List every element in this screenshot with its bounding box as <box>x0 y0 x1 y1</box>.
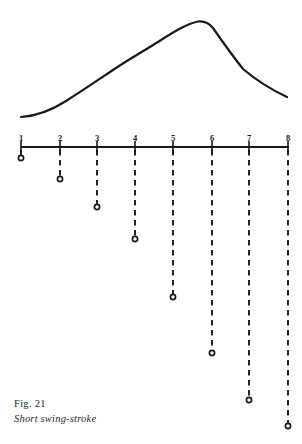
figure-title-label: Short swing-stroke <box>14 411 214 427</box>
tick-label-3: 3 <box>95 133 99 143</box>
tick-label-4: 4 <box>133 133 138 143</box>
stem-endpoint-6 <box>209 350 214 355</box>
tick-labels-group: 1 2 3 4 5 6 7 8 <box>19 133 290 143</box>
curve-group <box>21 21 287 117</box>
tick-label-5: 5 <box>171 133 175 143</box>
tick-label-8: 8 <box>286 133 290 143</box>
stem-endpoint-1 <box>18 155 23 160</box>
tick-label-2: 2 <box>58 133 62 143</box>
tick-label-6: 6 <box>210 133 214 143</box>
stem-endpoint-8 <box>285 423 290 428</box>
stem-endpoint-5 <box>170 294 175 299</box>
stem-endpoint-3 <box>94 204 99 209</box>
drop-lines-group <box>21 150 288 423</box>
stem-endpoint-7 <box>246 397 251 402</box>
figure-number-label: Fig. 21 <box>14 396 214 411</box>
stem-endpoint-4 <box>132 236 137 241</box>
figure-page: 1 2 3 4 5 6 7 8 <box>0 0 302 444</box>
short-swing-stroke-figure: 1 2 3 4 5 6 7 8 <box>0 0 302 444</box>
stem-endpoint-2 <box>57 176 62 181</box>
swing-stroke-curve <box>21 21 287 117</box>
tick-label-7: 7 <box>247 133 252 143</box>
figure-caption: Fig. 21 Short swing-stroke <box>14 396 214 427</box>
tick-label-1: 1 <box>19 133 23 143</box>
